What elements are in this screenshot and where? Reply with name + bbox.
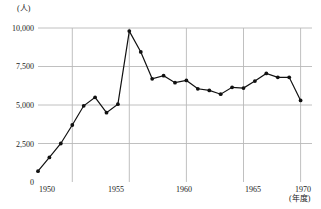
horizontal-gridlines — [38, 28, 312, 144]
line-chart: (人) (年度) 10,000 7,500 5,000 2,500 0 1950… — [0, 0, 321, 209]
chart-canvas — [0, 0, 321, 209]
data-point-markers — [36, 29, 302, 173]
data-line — [38, 31, 301, 171]
